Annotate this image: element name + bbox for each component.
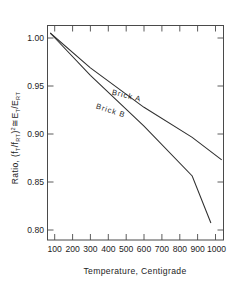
x-tick-label-300: 300 bbox=[83, 244, 98, 254]
x-tick-label-700: 700 bbox=[155, 244, 170, 254]
y-title-mid-3: ≅E bbox=[10, 112, 20, 126]
series-line-brick-b bbox=[50, 33, 211, 223]
x-tick-label-400: 400 bbox=[101, 244, 116, 254]
svg-text:Ratio, (fT/fRT)2≅ET/ERT: Ratio, (fT/fRT)2≅ET/ERT bbox=[10, 92, 21, 185]
y-tick-label-1.00: 1.00 bbox=[27, 33, 44, 43]
figure-panel: 1.00 0.95 0.90 0.85 0.80 100 200 300 400… bbox=[0, 0, 235, 286]
x-tick-label-200: 200 bbox=[65, 244, 80, 254]
data-curves bbox=[50, 33, 222, 223]
x-tick-labels: 100 200 300 400 500 600 700 800 900 1000 bbox=[48, 244, 227, 254]
y-axis-ticks bbox=[48, 38, 224, 230]
clipped-header-text bbox=[132, 0, 232, 6]
x-tick-label-800: 800 bbox=[173, 244, 188, 254]
y-tick-label-0.85: 0.85 bbox=[27, 177, 44, 187]
x-tick-label-1000: 1000 bbox=[207, 244, 226, 254]
y-title-sub-RT: RT bbox=[15, 133, 21, 141]
x-axis-title: Temperature, Centigrade bbox=[83, 266, 186, 276]
annotation-brick-b: Brick B bbox=[95, 102, 127, 120]
curve-annotations: Brick A Brick B bbox=[95, 88, 142, 120]
y-tick-label-0.95: 0.95 bbox=[27, 81, 44, 91]
y-axis-title: Ratio, (fT/fRT)2≅ET/ERT bbox=[10, 92, 21, 185]
y-tick-label-0.80: 0.80 bbox=[27, 225, 44, 235]
y-title-prefix: Ratio, (f bbox=[10, 151, 20, 184]
y-tick-label-0.90: 0.90 bbox=[27, 129, 44, 139]
y-title-sub-RT2: RT bbox=[15, 92, 21, 100]
x-tick-label-900: 900 bbox=[190, 244, 205, 254]
x-tick-label-100: 100 bbox=[48, 244, 63, 254]
y-title-mid-4: /E bbox=[10, 100, 20, 109]
chart-canvas: 1.00 0.95 0.90 0.85 0.80 100 200 300 400… bbox=[0, 0, 235, 286]
annotation-brick-a: Brick A bbox=[111, 88, 142, 104]
x-tick-label-600: 600 bbox=[137, 244, 152, 254]
y-tick-labels: 1.00 0.95 0.90 0.85 0.80 bbox=[27, 33, 44, 235]
x-tick-label-500: 500 bbox=[119, 244, 134, 254]
